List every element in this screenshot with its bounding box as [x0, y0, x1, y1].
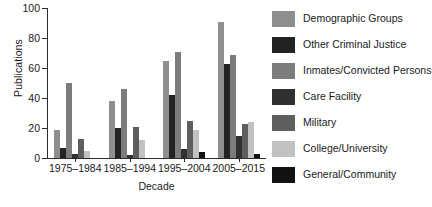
legend-label: Military: [303, 117, 336, 128]
legend-swatch: [272, 63, 295, 79]
legend-swatch: [272, 37, 295, 53]
y-tick-label: 100: [22, 2, 40, 14]
x-tick-label: 1985–1994: [103, 162, 156, 174]
bar-group: 2005–2015: [212, 8, 267, 158]
x-tick-label: 1995–2004: [158, 162, 211, 174]
legend-item: Inmates/Convicted Persons: [272, 62, 430, 79]
legend-label: College/University: [303, 143, 388, 154]
bar-group: 1975–1984: [48, 8, 103, 158]
legend-swatch: [272, 167, 295, 183]
bar: [139, 140, 145, 158]
chart-legend: Demographic GroupsOther Criminal Justice…: [272, 10, 430, 183]
legend-label: Inmates/Convicted Persons: [303, 65, 431, 76]
legend-label: Demographic Groups: [303, 13, 403, 24]
legend-item: Care Facility: [272, 88, 430, 105]
x-tick-label: 2005–2015: [212, 162, 265, 174]
legend-item: Military: [272, 114, 430, 131]
bar: [199, 152, 205, 158]
bar-group: 1995–2004: [157, 8, 212, 158]
y-axis-title: Publications: [12, 13, 24, 123]
bar: [121, 89, 127, 158]
y-tick-label: 40: [28, 92, 40, 104]
x-axis-line: [47, 158, 266, 159]
y-tick-mark: [42, 8, 47, 9]
y-tick-label: 20: [28, 122, 40, 134]
legend-label: General/Community: [303, 169, 396, 180]
legend-item: General/Community: [272, 166, 430, 183]
legend-swatch: [272, 141, 295, 157]
legend-swatch: [272, 11, 295, 27]
legend-swatch: [272, 115, 295, 131]
y-tick-label: 60: [28, 62, 40, 74]
bar: [175, 52, 181, 159]
y-tick-label: 80: [28, 32, 40, 44]
legend-swatch: [272, 89, 295, 105]
legend-item: Other Criminal Justice: [272, 36, 430, 53]
legend-item: College/University: [272, 140, 430, 157]
x-tick-label: 1975–1984: [49, 162, 102, 174]
bar: [254, 154, 260, 159]
x-axis-title: Decade: [47, 180, 266, 192]
legend-label: Other Criminal Justice: [303, 39, 406, 50]
y-tick-mark: [42, 38, 47, 39]
bar: [66, 83, 72, 158]
legend-item: Demographic Groups: [272, 10, 430, 27]
bar: [84, 151, 90, 159]
y-tick-mark: [42, 128, 47, 129]
y-tick-label: 0: [34, 152, 40, 164]
publications-by-decade-chart: Publications 020406080100 1975–19841985–…: [0, 0, 432, 207]
bar-group: 1985–1994: [103, 8, 158, 158]
y-tick-mark: [42, 68, 47, 69]
y-tick-mark: [42, 158, 47, 159]
legend-label: Care Facility: [303, 91, 361, 102]
y-tick-mark: [42, 98, 47, 99]
bar-groups: 1975–19841985–19941995–20042005–2015: [48, 8, 266, 158]
plot-area: 020406080100 1975–19841985–19941995–2004…: [47, 8, 265, 158]
